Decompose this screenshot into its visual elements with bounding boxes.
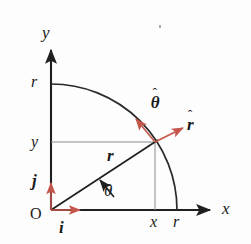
unit-vector-rhat-label: ˆ r bbox=[187, 116, 194, 133]
thetahat-hat-accent: ˆ bbox=[152, 87, 157, 101]
unit-vector-thetahat-label: ˆ θ bbox=[151, 94, 160, 111]
position-vector-label: r bbox=[107, 147, 114, 164]
polar-unit-vector-diagram: y x O r y x r r θ i j ˆ r ˆ θ bbox=[0, 0, 251, 244]
x-axis-label: x bbox=[222, 200, 230, 217]
y-axis-label: y bbox=[42, 24, 50, 41]
angle-theta-label: θ bbox=[104, 182, 112, 199]
unit-vector-rhat-arrow bbox=[155, 128, 183, 142]
unit-vector-j-label: j bbox=[32, 172, 37, 189]
x-tick-label-x: x bbox=[150, 214, 157, 230]
x-tick-label-r: r bbox=[173, 214, 179, 230]
polar-unit-vectors-group bbox=[136, 119, 183, 142]
scan-speck-artifact bbox=[159, 25, 161, 28]
unit-vector-i-label: i bbox=[59, 219, 64, 236]
y-tick-label-r: r bbox=[31, 74, 37, 90]
unit-vector-thetahat-arrow bbox=[136, 119, 155, 142]
cartesian-unit-vectors-group bbox=[51, 183, 80, 210]
rhat-hat-accent: ˆ bbox=[188, 109, 193, 123]
origin-label: O bbox=[30, 206, 42, 222]
y-tick-label-y: y bbox=[31, 134, 38, 150]
